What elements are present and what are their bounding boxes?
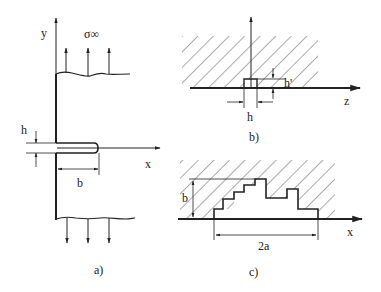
caption-c: c) [249, 265, 258, 279]
crack-height-label: h [21, 123, 27, 137]
diagram-canvas: y σ∞ h x b a) h' z h b) [0, 0, 381, 292]
plate-bottom-edge [56, 217, 135, 219]
panel-b: h' z h b) [182, 17, 360, 144]
stress-label: σ∞ [84, 27, 99, 41]
caption-b: b) [249, 130, 259, 144]
depth-label: b [182, 191, 188, 205]
panel-a: y σ∞ h x b a) [21, 18, 160, 277]
caption-a: a) [94, 263, 103, 277]
width-label: 2a [258, 239, 270, 253]
plate-top-edge [56, 72, 130, 76]
x-axis-label-c: x [347, 225, 353, 239]
x-axis-label: x [145, 157, 151, 171]
hatched-solid-c [180, 160, 336, 219]
notch-width-label: h [247, 110, 253, 124]
panel-c: b 2a x c) [178, 160, 362, 279]
notch-height-label: h' [284, 76, 292, 90]
y-axis-label: y [41, 26, 47, 40]
crack-length-label: b [77, 176, 83, 190]
z-axis-label: z [344, 94, 349, 108]
